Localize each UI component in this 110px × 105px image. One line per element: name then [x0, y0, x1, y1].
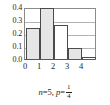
bar-0	[26, 28, 40, 59]
bar-4	[82, 57, 96, 59]
chart-caption: n=5, p=14	[0, 84, 110, 100]
y-tick-label-4: 0.4	[0, 4, 22, 12]
y-tick-label-3: 0.3	[0, 17, 22, 25]
x-tick-label-3: 3	[60, 62, 74, 71]
plot-area	[24, 8, 96, 60]
bar-1	[40, 8, 54, 59]
caption-n-value: =5,	[43, 87, 54, 97]
caption-p-fraction: 14	[66, 84, 72, 100]
x-tick-label-2: 2	[46, 62, 60, 71]
x-tick-label-4: 4	[74, 62, 88, 71]
x-tick-label-0: 0	[18, 62, 32, 71]
bar-3	[68, 48, 82, 59]
y-tick-label-2: 0.2	[0, 30, 22, 38]
y-tick-label-1: 0.1	[0, 43, 22, 51]
caption-p-equals: =	[60, 87, 65, 97]
binomial-histogram-figure: 0.0 0.1 0.2 0.3 0.4 0 1 2 3 4 n=5, p=14	[0, 0, 110, 105]
x-tick-label-1: 1	[32, 62, 46, 71]
fraction-denominator: 4	[66, 93, 72, 101]
bar-2	[54, 25, 68, 59]
bar-series	[25, 9, 95, 59]
